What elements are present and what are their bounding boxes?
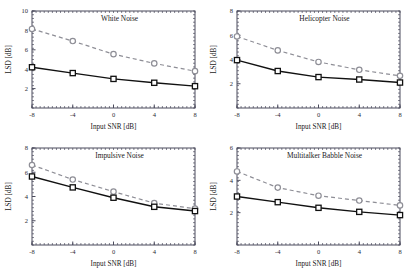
x-tick-label: -4 <box>70 111 76 118</box>
y-tick-label: 8 <box>25 27 28 34</box>
x-tick-label: 8 <box>398 111 401 118</box>
x-tick-label: 4 <box>358 111 362 118</box>
y-axis-label: LSD [dB] <box>210 182 218 211</box>
y-tick-label: 6 <box>25 46 29 53</box>
data-point-dashed-circle <box>152 61 157 66</box>
y-tick-label: 8 <box>230 7 233 14</box>
x-tick-label: 0 <box>317 248 320 255</box>
data-point-dashed-circle <box>29 26 34 31</box>
data-point-dashed-circle <box>111 189 116 194</box>
plot-frame <box>32 11 195 108</box>
data-point-solid-square <box>152 204 157 209</box>
plot-area: -8-4048246Input SNR [dB]LSD [dB]Multital… <box>205 137 410 274</box>
data-point-dashed-circle <box>275 48 280 53</box>
x-tick-label: -8 <box>29 248 34 255</box>
data-point-dashed-circle <box>357 67 362 72</box>
series-line-dashed-circle <box>32 165 195 209</box>
data-point-solid-square <box>397 80 402 85</box>
y-tick-label: 2 <box>25 85 28 92</box>
x-tick-label: 8 <box>398 248 401 255</box>
x-tick-label: 4 <box>153 111 157 118</box>
data-point-dashed-circle <box>316 59 321 64</box>
y-axis-label: LSD [dB] <box>5 45 13 74</box>
data-point-dashed-circle <box>397 203 402 208</box>
x-tick-label: -4 <box>70 248 76 255</box>
y-axis-label: LSD [dB] <box>210 45 218 74</box>
y-tick-label: 2 <box>230 209 233 216</box>
plot-area: -8-40482468Input SNR [dB]LSD [dB]Impulsi… <box>0 137 205 274</box>
x-axis-label: Input SNR [dB] <box>91 260 137 268</box>
x-tick-label: -4 <box>275 248 281 255</box>
y-tick-label: 4 <box>25 66 29 73</box>
plot-area: -8-40482468Input SNR [dB]LSD [dB]Helicop… <box>205 0 410 137</box>
data-point-dashed-circle <box>234 34 239 39</box>
data-point-solid-square <box>234 58 239 63</box>
plot-title: Helicopter Noise <box>299 14 350 23</box>
data-point-solid-square <box>357 77 362 82</box>
data-point-solid-square <box>70 70 75 75</box>
x-tick-label: -8 <box>234 248 239 255</box>
y-tick-label: 6 <box>230 32 234 39</box>
y-axis-label: LSD [dB] <box>5 182 13 211</box>
data-point-dashed-circle <box>275 185 280 190</box>
data-point-solid-square <box>234 194 239 199</box>
data-point-solid-square <box>29 174 34 179</box>
subplot-multitalker-babble-noise: -8-4048246Input SNR [dB]LSD [dB]Multital… <box>205 137 410 274</box>
data-point-solid-square <box>397 212 402 217</box>
data-point-solid-square <box>29 65 34 70</box>
data-point-dashed-circle <box>234 169 239 174</box>
y-tick-label: 6 <box>25 169 29 176</box>
x-tick-label: -8 <box>234 111 239 118</box>
data-point-dashed-circle <box>397 73 402 78</box>
y-tick-label: 10 <box>22 7 29 14</box>
data-point-dashed-circle <box>29 162 34 167</box>
x-axis-label: Input SNR [dB] <box>296 260 342 268</box>
data-point-dashed-circle <box>192 68 197 73</box>
series-line-dashed-circle <box>32 29 195 71</box>
plot-title: White Noise <box>101 14 139 23</box>
series-line-dashed-circle <box>237 36 400 75</box>
x-tick-label: 4 <box>153 248 157 255</box>
x-tick-label: 0 <box>317 111 320 118</box>
x-tick-label: 8 <box>193 111 196 118</box>
x-tick-label: -4 <box>275 111 281 118</box>
x-tick-label: 0 <box>112 111 115 118</box>
data-point-solid-square <box>192 84 197 89</box>
data-point-solid-square <box>316 205 321 210</box>
x-axis-label: Input SNR [dB] <box>91 123 137 131</box>
data-point-solid-square <box>111 76 116 81</box>
subplot-white-noise: -8-4048246810Input SNR [dB]LSD [dB]White… <box>0 0 205 137</box>
y-tick-label: 6 <box>230 144 234 151</box>
data-point-solid-square <box>275 200 280 205</box>
data-point-dashed-circle <box>111 51 116 56</box>
figure-canvas: -8-4048246810Input SNR [dB]LSD [dB]White… <box>0 0 411 275</box>
x-tick-label: -8 <box>29 111 34 118</box>
subplot-impulsive-noise: -8-40482468Input SNR [dB]LSD [dB]Impulsi… <box>0 137 205 274</box>
y-tick-label: 8 <box>25 144 28 151</box>
data-point-dashed-circle <box>70 38 75 43</box>
data-point-solid-square <box>316 74 321 79</box>
y-tick-label: 4 <box>230 177 234 184</box>
data-point-dashed-circle <box>357 198 362 203</box>
plot-area: -8-4048246810Input SNR [dB]LSD [dB]White… <box>0 0 205 137</box>
x-axis-label: Input SNR [dB] <box>296 123 342 131</box>
data-point-dashed-circle <box>70 177 75 182</box>
data-point-solid-square <box>70 185 75 190</box>
plot-title: Impulsive Noise <box>95 151 144 160</box>
data-point-solid-square <box>192 208 197 213</box>
data-point-dashed-circle <box>316 193 321 198</box>
y-tick-label: 4 <box>25 193 29 200</box>
data-point-solid-square <box>152 80 157 85</box>
plot-title: Multitalker Babble Noise <box>287 151 363 160</box>
data-point-solid-square <box>275 68 280 73</box>
x-tick-label: 0 <box>112 248 115 255</box>
x-tick-label: 8 <box>193 248 196 255</box>
y-tick-label: 2 <box>25 217 28 224</box>
y-tick-label: 2 <box>230 80 233 87</box>
data-point-solid-square <box>111 195 116 200</box>
data-point-solid-square <box>357 209 362 214</box>
y-tick-label: 4 <box>230 56 234 63</box>
x-tick-label: 4 <box>358 248 362 255</box>
subplot-helicopter-noise: -8-40482468Input SNR [dB]LSD [dB]Helicop… <box>205 0 410 137</box>
